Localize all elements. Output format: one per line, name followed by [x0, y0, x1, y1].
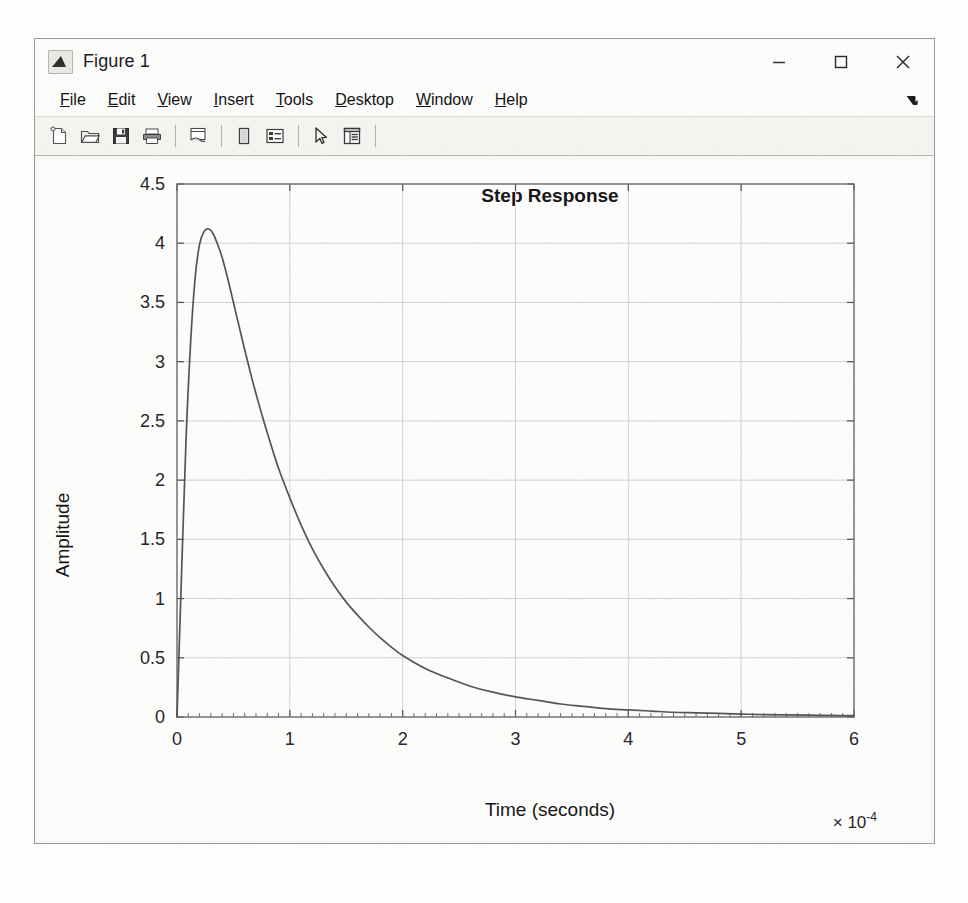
overflow-arrow-icon[interactable] — [904, 92, 920, 108]
matlab-icon — [48, 50, 73, 74]
open-file-button[interactable] — [75, 121, 105, 151]
close-button[interactable] — [872, 39, 934, 84]
svg-text:3: 3 — [155, 352, 165, 372]
link-plot-icon — [187, 125, 209, 147]
menu-item-help[interactable]: Help — [484, 91, 539, 109]
menu-item-window[interactable]: Window — [405, 91, 484, 109]
legend-icon — [264, 125, 286, 147]
menu-bar: File Edit View Insert Tools Desktop Wind… — [35, 84, 934, 117]
window-controls — [748, 39, 934, 84]
save-figure-button[interactable] — [106, 121, 136, 151]
figure-window: Figure 1 — [34, 38, 935, 844]
svg-text:0: 0 — [155, 707, 165, 727]
menu-item-tools[interactable]: Tools — [265, 91, 324, 109]
svg-text:3.5: 3.5 — [140, 292, 165, 312]
maximize-button[interactable] — [810, 39, 872, 84]
link-plot-button[interactable] — [183, 121, 213, 151]
menu-item-insert[interactable]: Insert — [203, 91, 265, 109]
y-axis-label: Amplitude — [52, 493, 73, 578]
tool-bar — [35, 117, 934, 156]
insert-colorbar-button[interactable] — [229, 121, 259, 151]
title-bar: Figure 1 — [35, 39, 934, 84]
close-icon — [892, 51, 914, 73]
x-axis-exponent: × 10-4 — [833, 810, 878, 832]
x-axis-label: Time (seconds) — [485, 799, 615, 820]
grid-lines — [177, 184, 854, 717]
svg-text:4: 4 — [155, 233, 165, 253]
insert-legend-button[interactable] — [260, 121, 290, 151]
minimize-button[interactable] — [748, 39, 810, 84]
colorbar-icon — [233, 125, 255, 147]
svg-text:0: 0 — [172, 729, 182, 749]
pointer-arrow-icon — [310, 125, 332, 147]
maximize-icon — [831, 52, 851, 72]
axis-tick-labels: 012345600.511.522.533.544.5 — [140, 174, 859, 749]
print-figure-button[interactable] — [137, 121, 167, 151]
toolbar-separator — [221, 125, 222, 147]
toolbar-separator — [175, 125, 176, 147]
svg-text:1: 1 — [155, 589, 165, 609]
svg-text:0.5: 0.5 — [140, 648, 165, 668]
minimize-icon — [769, 52, 789, 72]
new-document-icon — [48, 125, 70, 147]
figure-canvas: Step Response Amplitude Time (seconds) ×… — [39, 160, 930, 839]
toolbar-separator — [375, 125, 376, 147]
property-inspector-icon — [341, 125, 363, 147]
open-folder-icon — [79, 125, 101, 147]
svg-text:2.5: 2.5 — [140, 411, 165, 431]
svg-text:1: 1 — [285, 729, 295, 749]
window-title: Figure 1 — [83, 51, 150, 72]
svg-text:4.5: 4.5 — [140, 174, 165, 194]
svg-text:2: 2 — [155, 470, 165, 490]
svg-text:5: 5 — [736, 729, 746, 749]
step-response-plot[interactable]: Step Response Amplitude Time (seconds) ×… — [39, 160, 930, 836]
svg-text:2: 2 — [398, 729, 408, 749]
plot-title: Step Response — [481, 185, 618, 206]
property-inspector-button[interactable] — [337, 121, 367, 151]
new-figure-button[interactable] — [44, 121, 74, 151]
svg-text:4: 4 — [623, 729, 633, 749]
edit-plot-button[interactable] — [306, 121, 336, 151]
menu-item-view[interactable]: View — [146, 91, 202, 109]
toolbar-separator — [298, 125, 299, 147]
menu-item-file[interactable]: File — [49, 91, 97, 109]
floppy-disk-icon — [110, 125, 132, 147]
scanned-page-background: Figure 1 — [0, 0, 968, 903]
printer-icon — [141, 125, 163, 147]
svg-text:1.5: 1.5 — [140, 529, 165, 549]
menu-item-desktop[interactable]: Desktop — [324, 91, 405, 109]
svg-text:3: 3 — [510, 729, 520, 749]
svg-text:6: 6 — [849, 729, 859, 749]
menu-item-edit[interactable]: Edit — [97, 91, 147, 109]
